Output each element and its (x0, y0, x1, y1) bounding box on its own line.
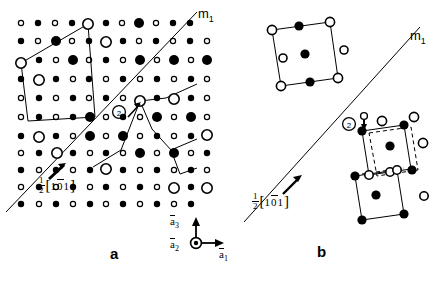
cell-corner-atom (365, 171, 373, 179)
lattice-atom (137, 76, 142, 81)
mirror-plane-label-a: m1 (198, 6, 214, 24)
cell-exterior-atom (340, 46, 348, 54)
lattice-atom (154, 57, 159, 62)
lattice-atom (18, 184, 23, 189)
lattice-atom (188, 150, 193, 155)
cell-corner-atom (407, 165, 416, 174)
burgers-fraction-a: 1 2 (38, 176, 45, 196)
burgers-vector-label-b: 1 2 [101] (252, 192, 289, 212)
lattice-atom (204, 95, 209, 100)
axis-label-a1: a1 (219, 248, 228, 263)
lattice-atom (204, 76, 209, 81)
lattice-atom (70, 95, 76, 101)
lattice-atom (18, 201, 24, 207)
lattice-atom (120, 95, 125, 100)
burgers-bracket-close-a: ] (70, 177, 75, 193)
lattice-atom (187, 38, 193, 44)
lattice-atom (120, 150, 125, 155)
lattice-atom (188, 167, 194, 173)
lattice-atom (36, 57, 42, 63)
lattice-atom (134, 18, 144, 28)
lattice-atom (153, 38, 159, 44)
mirror-plane-symbol-b: m (410, 28, 421, 43)
axis-label-a2: a2 (170, 238, 179, 253)
lattice-atom (53, 95, 58, 100)
lattice-atom (135, 148, 145, 158)
cell-corner-atom (276, 81, 285, 90)
lattice-atom (70, 114, 76, 120)
lattice-atom (103, 201, 108, 206)
lattice-atom (103, 114, 108, 119)
lattice-atom (36, 114, 42, 120)
crystallography-figure: 2 (0, 0, 441, 281)
panel-label-b: b (317, 243, 326, 260)
lattice-atom (85, 131, 95, 141)
lattice-atom (154, 150, 159, 155)
lattice-atom (188, 57, 193, 62)
lattice-atom (36, 150, 42, 156)
lattice-atom (53, 76, 59, 82)
burgers-bracket-close-b: ] (284, 193, 289, 209)
mirror-plane-symbol-a: m (198, 6, 209, 21)
lattice-atom (103, 150, 109, 156)
lattice-atom (171, 133, 176, 138)
lattice-atom (171, 76, 176, 81)
lattice-atom (70, 167, 75, 172)
lattice-atom (120, 167, 126, 173)
lattice-atom (36, 95, 42, 101)
cell-edge-atom (305, 77, 314, 86)
lattice-atom (154, 133, 160, 139)
cell-center-atom (385, 141, 394, 150)
lattice-atom (118, 131, 128, 141)
lattice-atom (188, 133, 194, 139)
lattice-atom (135, 55, 145, 65)
lattice-atom (137, 114, 142, 119)
cell-interior-atom (279, 54, 287, 62)
lattice-atom (53, 133, 59, 139)
axis-a3-arrowhead (192, 217, 200, 226)
lattice-atom (18, 38, 24, 44)
lattice-atom (70, 201, 75, 206)
axis-triad-group (191, 217, 224, 248)
cell-corner-atom (325, 17, 334, 26)
burgers-vector-arrow-head-b (293, 175, 302, 182)
lattice-atom (18, 114, 23, 119)
burgers-vector-label-a: 1 2 [101] (38, 176, 75, 196)
lattice-atom (187, 20, 193, 26)
lattice-atom (101, 164, 111, 174)
lattice-atom (188, 201, 194, 207)
lattice-atom (153, 20, 158, 25)
cell-exterior-atom (420, 192, 428, 200)
cell-corner-atom (357, 215, 366, 224)
burgers-denominator-a: 2 (38, 186, 45, 195)
lattice-atom (120, 201, 126, 207)
lattice-atom (188, 95, 194, 101)
cell-edge-atom (294, 21, 303, 30)
lattice-atom (85, 112, 95, 122)
lattice-atom (70, 150, 76, 156)
lattice-atom (103, 57, 109, 63)
lattice-atom (154, 201, 160, 207)
lattice-atom (169, 183, 179, 193)
lattice-atom (137, 133, 142, 138)
lattice-atom (70, 133, 75, 138)
lattice-atom (18, 133, 24, 139)
lattice-atom (83, 19, 93, 29)
lattice-atom (137, 184, 143, 190)
displaced-atom (361, 113, 368, 120)
cell-corner-atom (393, 166, 401, 174)
lattice-atom (188, 76, 194, 82)
panel-a-group: 2 (6, 12, 212, 212)
step-marker-label-a: 2 (117, 109, 122, 118)
burgers-denominator-b: 2 (252, 202, 259, 211)
lattice-atom (51, 36, 61, 46)
lattice-atom (154, 184, 159, 189)
cell-corner-atom (418, 138, 427, 147)
lattice-atom (87, 184, 92, 189)
lattice-atom (35, 38, 40, 43)
cell-center-atom (300, 49, 309, 58)
lattice-atom (169, 55, 179, 65)
lattice-atom (137, 201, 142, 206)
lattice-atom (68, 55, 78, 65)
mirror-plane-subscript-b: 1 (421, 36, 426, 46)
